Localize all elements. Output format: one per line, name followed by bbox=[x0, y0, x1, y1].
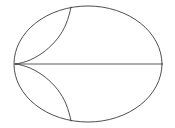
geometry-diagram bbox=[0, 0, 175, 128]
figure-canvas bbox=[0, 0, 175, 128]
